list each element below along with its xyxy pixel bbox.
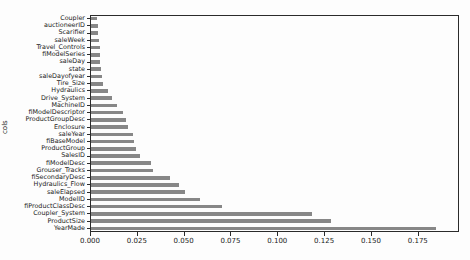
bar xyxy=(91,198,200,202)
bar xyxy=(91,75,102,79)
bar xyxy=(91,24,98,28)
bar xyxy=(91,147,136,151)
bar xyxy=(91,31,98,35)
bar xyxy=(91,125,128,129)
x-tick-label: 0.025 xyxy=(120,237,154,245)
bar xyxy=(91,104,117,108)
x-tick-label: 0.050 xyxy=(167,237,201,245)
bar xyxy=(91,96,112,100)
bar xyxy=(91,176,170,180)
x-tick-mark xyxy=(230,232,231,236)
bar xyxy=(91,140,134,144)
bar xyxy=(91,111,123,115)
bar xyxy=(91,133,133,137)
bar xyxy=(91,205,222,209)
y-axis-label: YearMade xyxy=(0,225,85,232)
x-tick-mark xyxy=(324,232,325,236)
bar xyxy=(91,39,99,43)
plot-area xyxy=(90,15,459,232)
x-tick-label: 0.075 xyxy=(213,237,247,245)
x-tick-mark xyxy=(137,232,138,236)
bar xyxy=(91,169,153,173)
bar xyxy=(91,118,126,122)
x-tick-label: 0.000 xyxy=(73,237,107,245)
bar xyxy=(91,154,140,158)
feature-importance-chart: cols CouplerauctioneerIDScarifiersaleWee… xyxy=(0,0,470,260)
bar xyxy=(91,89,108,93)
bar xyxy=(91,161,151,165)
x-tick-label: 0.125 xyxy=(307,237,341,245)
x-tick-mark xyxy=(277,232,278,236)
x-tick-label: 0.175 xyxy=(401,237,435,245)
bar xyxy=(91,219,331,223)
bar xyxy=(91,46,100,50)
x-tick-mark xyxy=(184,232,185,236)
bar xyxy=(91,53,100,57)
bar xyxy=(91,67,101,71)
x-tick-mark xyxy=(90,232,91,236)
x-tick-mark xyxy=(418,232,419,236)
bar xyxy=(91,183,179,187)
bar xyxy=(91,60,100,64)
bar xyxy=(91,212,312,216)
bar xyxy=(91,227,436,231)
x-tick-label: 0.100 xyxy=(260,237,294,245)
bar xyxy=(91,82,103,86)
bar xyxy=(91,17,97,21)
x-tick-label: 0.150 xyxy=(354,237,388,245)
bar xyxy=(91,190,185,194)
x-tick-mark xyxy=(371,232,372,236)
